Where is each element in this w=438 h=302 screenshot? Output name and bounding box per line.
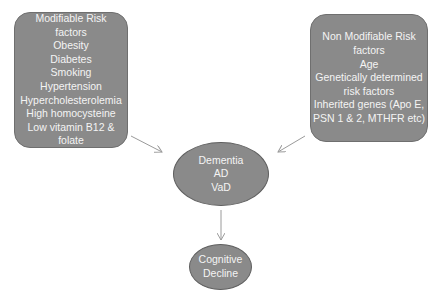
box-line: factors [55, 26, 87, 40]
box-line: PSN 1 & 2, MTHFR etc) [313, 112, 425, 126]
box-line: Diabetes [50, 53, 91, 67]
box-line: Age [360, 58, 379, 72]
box-line: Genetically determined [315, 71, 422, 85]
modifiable-risk-factors-box: Modifiable Risk factors Obesity Diabetes… [14, 12, 128, 148]
cognitive-decline-node: Cognitive Decline [189, 244, 252, 290]
box-line: Hypercholesterolemia [20, 94, 122, 108]
box-line: factors [353, 44, 385, 58]
box-line: Low vitamin B12 & [28, 121, 115, 135]
node-line: AD [214, 167, 229, 181]
node-line: Cognitive [199, 253, 243, 267]
node-line: VaD [211, 181, 231, 195]
box-line: folate [58, 134, 84, 148]
box-line: High homocysteine [26, 107, 115, 121]
non-modifiable-risk-factors-box: Non Modifiable Risk factors Age Genetica… [310, 14, 428, 142]
box-line: Non Modifiable Risk [322, 30, 415, 44]
dementia-node: Dementia AD VaD [173, 142, 269, 206]
node-line: Dementia [199, 154, 244, 168]
node-line: Decline [203, 267, 238, 281]
box-line: Hypertension [40, 80, 102, 94]
box-line: Modifiable Risk [35, 12, 106, 26]
box-line: Smoking [51, 66, 92, 80]
box-line: risk factors [344, 85, 395, 99]
box-line: Obesity [53, 39, 89, 53]
arrow-modifiable-to-dementia [131, 136, 162, 152]
arrow-nonmodifiable-to-dementia [278, 136, 305, 152]
box-line: Inherited genes (Apo E, [314, 98, 424, 112]
